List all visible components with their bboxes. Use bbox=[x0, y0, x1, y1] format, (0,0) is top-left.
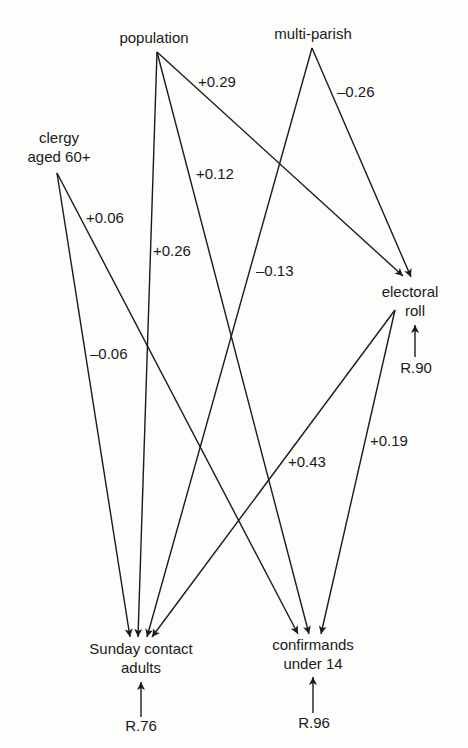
coef-population-electoral-roll: +0.29 bbox=[198, 73, 236, 90]
coef-clergy-sunday-contact: –0.06 bbox=[90, 345, 128, 362]
edge-population-to-sunday-contact bbox=[138, 52, 157, 637]
residual-electoral-roll-label: R.90 bbox=[400, 359, 432, 376]
residual-sunday-contact: R.76 bbox=[125, 682, 157, 734]
residual-electoral-roll: R.90 bbox=[400, 325, 432, 376]
coef-electoral-roll-confirmands: +0.19 bbox=[370, 432, 408, 449]
node-clergy-aged-60: clergy aged 60+ bbox=[28, 129, 91, 165]
node-electoral-roll: electoral roll bbox=[382, 283, 439, 319]
node-confirmands-under-14: confirmands under 14 bbox=[272, 636, 354, 672]
coef-clergy-confirmands: +0.06 bbox=[86, 209, 124, 226]
node-population: population bbox=[119, 29, 188, 46]
coef-multi-parish-sunday-contact: –0.13 bbox=[256, 262, 294, 279]
coef-electoral-roll-sunday-contact: +0.43 bbox=[288, 453, 326, 470]
coef-population-confirmands: +0.12 bbox=[196, 165, 234, 182]
node-electoral-roll-label-line2: roll bbox=[405, 302, 425, 319]
residual-confirmands-label: R.96 bbox=[298, 714, 330, 731]
residual-confirmands: R.96 bbox=[298, 677, 330, 731]
node-confirmands-label-line1: confirmands bbox=[272, 636, 354, 653]
node-clergy-label-line1: clergy bbox=[39, 129, 80, 146]
node-population-label: population bbox=[119, 29, 188, 46]
residual-sunday-contact-label: R.76 bbox=[125, 717, 157, 734]
node-multi-parish: multi-parish bbox=[274, 25, 352, 42]
node-sunday-contact-label-line2: adults bbox=[121, 659, 161, 676]
path-diagram: population multi-parish clergy aged 60+ … bbox=[0, 0, 468, 748]
node-electoral-roll-label-line1: electoral bbox=[382, 283, 439, 300]
node-confirmands-label-line2: under 14 bbox=[283, 655, 342, 672]
coef-population-sunday-contact: +0.26 bbox=[153, 242, 191, 259]
coef-multi-parish-electoral-roll: –0.26 bbox=[337, 83, 375, 100]
edge-electoral-roll-to-confirmands bbox=[321, 310, 395, 634]
node-sunday-contact-adults: Sunday contact adults bbox=[89, 640, 193, 676]
node-clergy-label-line2: aged 60+ bbox=[28, 148, 91, 165]
node-multi-parish-label: multi-parish bbox=[274, 25, 352, 42]
node-sunday-contact-label-line1: Sunday contact bbox=[89, 640, 193, 657]
